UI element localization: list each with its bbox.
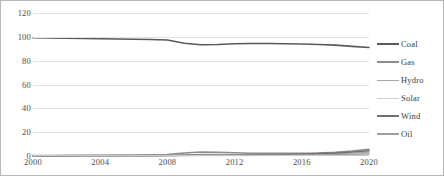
legend-swatch-solar-icon [377,98,399,99]
legend-item-hydro[interactable]: Hydro [377,71,443,89]
x-tick-label: 2012 [226,158,244,167]
legend-item-oil[interactable]: Oil [377,125,443,143]
legend-item-solar[interactable]: Solar [377,89,443,107]
grid-line [33,37,369,38]
legend-item-gas[interactable]: Gas [377,53,443,71]
legend-label: Gas [401,58,415,67]
chart-legend: CoalGasHydroSolarWindOil [377,35,443,143]
grid-line [33,132,369,133]
legend-swatch-wind-icon [377,115,399,117]
legend-label: Hydro [401,76,424,85]
x-tick-label: 2008 [158,158,176,167]
legend-label: Wind [401,112,420,121]
legend-item-coal[interactable]: Coal [377,35,443,53]
x-tick-label: 2004 [91,158,109,167]
y-tick-label: 120 [3,9,31,18]
x-tick-label: 2020 [360,158,378,167]
legend-label: Solar [401,94,420,103]
x-tick-label: 2000 [24,158,42,167]
y-tick-label: 100 [3,33,31,42]
y-tick-label: 20 [3,128,31,137]
plot-area [33,13,369,156]
series-line-coal [33,38,369,48]
grid-line [33,61,369,62]
grid-line [33,13,369,14]
line-chart-figure: 020406080100120 200020042008201220162020… [0,0,444,176]
legend-swatch-gas-icon [377,61,399,63]
legend-label: Coal [401,40,418,49]
legend-swatch-coal-icon [377,43,399,45]
y-tick-label: 60 [3,80,31,89]
grid-line [33,85,369,86]
legend-swatch-oil-icon [377,133,399,135]
legend-label: Oil [401,130,412,139]
y-axis: 020406080100120 [1,13,31,156]
x-tick-label: 2016 [293,158,311,167]
x-axis: 200020042008201220162020 [33,158,369,172]
legend-item-wind[interactable]: Wind [377,107,443,125]
grid-line [33,108,369,109]
legend-swatch-hydro-icon [377,80,399,81]
y-tick-label: 80 [3,56,31,65]
x-axis-line [33,155,369,156]
y-tick-label: 40 [3,104,31,113]
